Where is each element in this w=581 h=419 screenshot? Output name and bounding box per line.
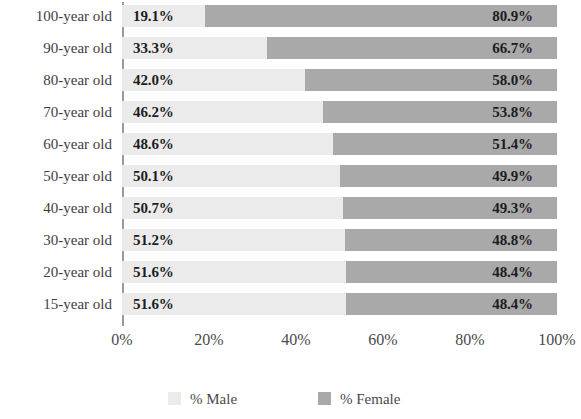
bar-value-label-male: 51.6% [133, 293, 174, 315]
bar-value-label-female: 66.7% [492, 37, 533, 59]
x-tick-label: 0% [87, 331, 157, 349]
legend-swatch-icon [318, 392, 331, 405]
bar-row: 46.2%53.8% [122, 101, 557, 123]
bar-value-label-male: 51.6% [133, 261, 174, 283]
legend-label: % Female [340, 391, 400, 407]
plot-area: 19.1%80.9%33.3%66.7%42.0%58.0%46.2%53.8%… [122, 0, 557, 326]
bar-row: 19.1%80.9% [122, 5, 557, 27]
stacked-bar-chart: 19.1%80.9%33.3%66.7%42.0%58.0%46.2%53.8%… [0, 0, 581, 419]
category-label: 15-year old [0, 293, 112, 315]
bar-value-label-male: 46.2% [133, 101, 174, 123]
x-tick-label: 100% [522, 331, 581, 349]
bar-value-label-male: 50.7% [133, 197, 174, 219]
bar-row: 51.2%48.8% [122, 229, 557, 251]
bar-row: 42.0%58.0% [122, 69, 557, 91]
x-tick-label: 80% [435, 331, 505, 349]
bar-row: 51.6%48.4% [122, 293, 557, 315]
bar-value-label-female: 48.8% [492, 229, 533, 251]
legend-swatch-icon [168, 392, 181, 405]
chart-legend: % Male% Female [0, 388, 581, 412]
x-tick-label: 60% [348, 331, 418, 349]
category-label: 80-year old [0, 69, 112, 91]
bar-value-label-male: 42.0% [133, 69, 174, 91]
bar-value-label-female: 58.0% [492, 69, 533, 91]
category-label: 40-year old [0, 197, 112, 219]
legend-item[interactable]: % Male [168, 388, 237, 410]
bar-row: 50.1%49.9% [122, 165, 557, 187]
bar-value-label-male: 51.2% [133, 229, 174, 251]
category-label: 70-year old [0, 101, 112, 123]
bar-value-label-male: 33.3% [133, 37, 174, 59]
bar-row: 50.7%49.3% [122, 197, 557, 219]
bar-value-label-female: 53.8% [492, 101, 533, 123]
bar-value-label-female: 49.3% [492, 197, 533, 219]
bar-value-label-male: 48.6% [133, 133, 174, 155]
bar-row: 48.6%51.4% [122, 133, 557, 155]
category-label: 100-year old [0, 5, 112, 27]
category-label: 50-year old [0, 165, 112, 187]
bar-value-label-female: 80.9% [492, 5, 533, 27]
bar-value-label-female: 51.4% [492, 133, 533, 155]
bar-value-label-male: 50.1% [133, 165, 174, 187]
legend-label: % Male [190, 391, 237, 407]
bar-value-label-female: 49.9% [492, 165, 533, 187]
bar-row: 51.6%48.4% [122, 261, 557, 283]
category-label: 30-year old [0, 229, 112, 251]
bar-value-label-female: 48.4% [492, 293, 533, 315]
bar-row: 33.3%66.7% [122, 37, 557, 59]
category-label: 20-year old [0, 261, 112, 283]
legend-item[interactable]: % Female [318, 388, 400, 410]
bar-value-label-male: 19.1% [133, 5, 174, 27]
category-label: 90-year old [0, 37, 112, 59]
x-tick-label: 40% [261, 331, 331, 349]
bar-value-label-female: 48.4% [492, 261, 533, 283]
category-label: 60-year old [0, 133, 112, 155]
x-tick-label: 20% [174, 331, 244, 349]
